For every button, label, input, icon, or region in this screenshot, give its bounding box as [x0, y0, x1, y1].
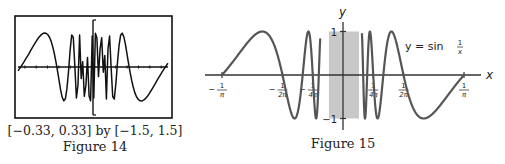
x-axis-label: x: [485, 68, 494, 82]
curve-label-numerator: 1: [458, 39, 462, 47]
y-tick-label: 1: [331, 27, 337, 38]
figure-15: xy1−11π−12π−14π−14π12π1πy = sin 1x Figur…: [0, 0, 505, 164]
x-tick-label: 1π: [459, 82, 469, 99]
figure-15-plot: xy1−11π−12π−14π−14π12π1πy = sin 1x: [0, 0, 505, 135]
fraction-denominator: π: [462, 91, 467, 99]
minus-sign: −: [208, 85, 215, 94]
curve-label-denominator: x: [457, 48, 463, 56]
fraction-denominator: π: [220, 91, 225, 99]
fraction-numerator: 1: [220, 82, 224, 90]
y-tick-label: −1: [322, 114, 337, 125]
y-axis-label: y: [338, 5, 347, 19]
curve-label: y = sin: [405, 40, 444, 53]
x-tick-label: 1π−: [208, 82, 227, 99]
fraction-numerator: 1: [462, 82, 466, 90]
minus-sign: −: [269, 85, 276, 94]
figure-15-title: Figure 15: [293, 136, 393, 151]
